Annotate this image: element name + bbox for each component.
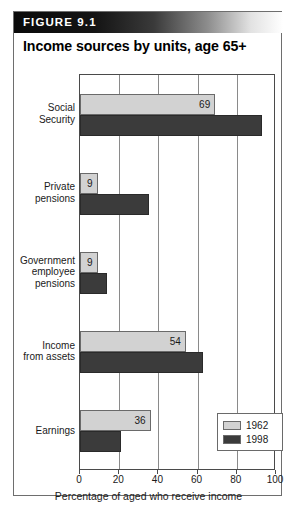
category-label: SocialSecurity	[15, 102, 79, 125]
legend-label: 1962	[246, 420, 268, 431]
legend-item: 1962	[223, 418, 277, 432]
category-label-line: Government	[15, 255, 75, 267]
figure-number-label: FIGURE 9.1	[23, 16, 97, 28]
bar-value-label: 54	[170, 335, 181, 348]
bar-1962: 69	[80, 94, 215, 115]
bar-1962: 36	[80, 410, 151, 431]
bar-value-label: 69	[199, 98, 210, 111]
figure-title: Income sources by units, age 65+	[23, 38, 279, 54]
x-tick-label: 0	[76, 474, 82, 485]
x-tick-label: 40	[152, 474, 163, 485]
bar-value-label: 9	[87, 256, 93, 269]
category-label-line: Private	[15, 181, 75, 193]
bar-1962: 9	[80, 173, 98, 194]
category-label: Governmentemployeepensions	[15, 255, 79, 290]
legend-item: 1998	[223, 432, 277, 446]
bar-1998	[80, 273, 107, 294]
chart-plot-region: SocialSecurityPrivatepensionsGovernmente…	[14, 62, 283, 496]
figure-frame: FIGURE 9.1 Income sources by units, age …	[13, 11, 282, 496]
category-label-line: Security	[15, 114, 75, 126]
bar-group: 69	[80, 94, 274, 136]
x-axis-title: Percentage of aged who receive income	[14, 490, 283, 502]
bar-1962: 9	[80, 252, 98, 273]
category-axis-labels: SocialSecurityPrivatepensionsGovernmente…	[14, 74, 79, 470]
legend-label: 1998	[246, 434, 268, 445]
bar-1998	[80, 352, 203, 373]
x-tick-label: 60	[191, 474, 202, 485]
bar-1998	[80, 115, 262, 136]
bar-1998	[80, 194, 149, 215]
x-tick-label: 80	[230, 474, 241, 485]
category-label-line: Social	[15, 102, 75, 114]
figure-header-bar: FIGURE 9.1	[14, 12, 283, 33]
x-tick-label: 20	[113, 474, 124, 485]
category-label-line: employee	[15, 266, 75, 278]
category-label-line: pensions	[15, 193, 75, 205]
category-label: Privatepensions	[15, 181, 79, 204]
category-label: Incomefrom assets	[15, 340, 79, 363]
category-label-line: from assets	[15, 351, 75, 363]
bar-group: 54	[80, 331, 274, 373]
plot-area: 69995436	[79, 74, 275, 470]
bar-value-label: 36	[134, 414, 145, 427]
bar-1962: 54	[80, 331, 186, 352]
category-label-line: Earnings	[15, 425, 75, 437]
bar-1998	[80, 431, 121, 452]
x-tick-label: 100	[267, 474, 284, 485]
legend-swatch	[223, 435, 241, 444]
bar-value-label: 9	[87, 177, 93, 190]
bar-group: 9	[80, 173, 274, 215]
legend-swatch	[223, 421, 241, 430]
category-label: Earnings	[15, 425, 79, 437]
category-label-line: Income	[15, 340, 75, 352]
bar-group: 9	[80, 252, 274, 294]
category-label-line: pensions	[15, 278, 75, 290]
chart-legend: 19621998	[217, 413, 283, 451]
